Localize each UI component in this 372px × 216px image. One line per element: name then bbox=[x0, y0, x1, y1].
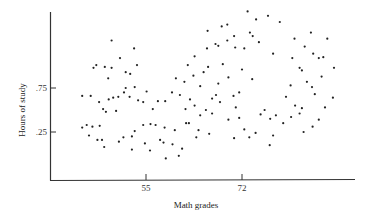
data-point bbox=[272, 53, 274, 55]
data-point bbox=[238, 117, 240, 119]
data-point bbox=[171, 91, 173, 93]
data-point bbox=[248, 136, 250, 138]
data-point bbox=[81, 95, 83, 97]
data-point bbox=[238, 91, 240, 93]
data-point bbox=[171, 143, 173, 145]
data-point bbox=[95, 64, 97, 66]
data-point bbox=[91, 126, 93, 128]
data-point bbox=[227, 119, 229, 121]
data-point bbox=[99, 125, 101, 127]
data-point bbox=[255, 132, 257, 134]
data-point bbox=[146, 90, 148, 92]
data-point bbox=[185, 122, 187, 124]
data-point bbox=[249, 31, 251, 33]
data-point bbox=[125, 71, 127, 73]
data-point bbox=[111, 39, 113, 41]
data-point bbox=[306, 81, 308, 83]
scatter-chart: .75.25 5572 Hours of study Math grades bbox=[0, 0, 372, 216]
data-point bbox=[108, 98, 110, 100]
data-point bbox=[217, 45, 219, 47]
data-point bbox=[206, 47, 208, 49]
data-point bbox=[90, 95, 92, 97]
data-point bbox=[333, 67, 335, 69]
data-point bbox=[217, 83, 219, 85]
data-point bbox=[247, 10, 249, 12]
data-point bbox=[321, 76, 323, 78]
data-point bbox=[304, 46, 306, 48]
data-point bbox=[251, 78, 253, 80]
data-point bbox=[162, 142, 164, 144]
data-point bbox=[81, 127, 83, 129]
data-point bbox=[195, 136, 197, 138]
data-point bbox=[123, 91, 125, 93]
data-point bbox=[260, 113, 262, 115]
data-point bbox=[96, 139, 98, 141]
data-point bbox=[197, 129, 199, 131]
data-point bbox=[214, 43, 216, 45]
x-axis-label: Math grades bbox=[174, 200, 219, 210]
data-point bbox=[285, 96, 287, 98]
data-point bbox=[243, 47, 245, 49]
data-points bbox=[81, 10, 335, 159]
data-point bbox=[194, 55, 196, 57]
data-point bbox=[131, 135, 133, 137]
data-point bbox=[181, 148, 183, 150]
y-tick-label: .75 bbox=[36, 83, 48, 93]
data-point bbox=[318, 57, 320, 59]
data-point bbox=[142, 101, 144, 103]
data-point bbox=[157, 100, 159, 102]
data-point bbox=[269, 144, 271, 146]
data-point bbox=[243, 128, 245, 130]
data-point bbox=[115, 110, 117, 112]
data-point bbox=[111, 67, 113, 69]
data-point bbox=[137, 99, 139, 101]
data-point bbox=[207, 30, 209, 32]
data-point bbox=[215, 94, 217, 96]
data-point bbox=[291, 57, 293, 59]
data-point bbox=[275, 114, 277, 116]
data-point bbox=[211, 98, 213, 100]
data-point bbox=[222, 63, 224, 65]
data-point bbox=[192, 75, 194, 77]
data-point bbox=[311, 86, 313, 88]
y-tick-label: .25 bbox=[36, 127, 48, 137]
data-point bbox=[133, 47, 135, 49]
data-point bbox=[165, 157, 167, 159]
data-point bbox=[205, 109, 207, 111]
data-point bbox=[98, 101, 100, 103]
data-point bbox=[324, 106, 326, 108]
data-point bbox=[189, 98, 191, 100]
data-point bbox=[159, 139, 161, 141]
x-tick-label: 55 bbox=[142, 183, 152, 193]
data-point bbox=[104, 66, 106, 68]
data-point bbox=[282, 122, 284, 124]
data-point bbox=[103, 146, 105, 148]
data-point bbox=[136, 64, 138, 66]
data-point bbox=[226, 24, 228, 26]
data-point bbox=[125, 87, 127, 89]
data-point bbox=[301, 69, 303, 71]
data-point bbox=[219, 101, 221, 103]
data-point bbox=[233, 35, 235, 37]
data-point bbox=[199, 85, 201, 87]
data-point bbox=[227, 76, 229, 78]
data-point bbox=[299, 112, 301, 114]
data-point bbox=[208, 133, 210, 135]
plot-area: .75.25 5572 Hours of study Math grades bbox=[17, 10, 355, 210]
data-point bbox=[117, 96, 119, 98]
data-point bbox=[211, 112, 213, 114]
data-point bbox=[310, 31, 312, 33]
data-point bbox=[241, 68, 243, 70]
data-point bbox=[142, 124, 144, 126]
data-point bbox=[149, 123, 151, 125]
data-point bbox=[92, 67, 94, 69]
data-point bbox=[267, 15, 269, 17]
data-point bbox=[203, 71, 205, 73]
data-point bbox=[129, 73, 131, 75]
data-point bbox=[118, 141, 120, 143]
x-ticks: 5572 bbox=[142, 174, 247, 193]
data-point bbox=[175, 77, 177, 79]
data-point bbox=[314, 93, 316, 95]
data-point bbox=[312, 126, 314, 128]
data-point bbox=[199, 114, 201, 116]
